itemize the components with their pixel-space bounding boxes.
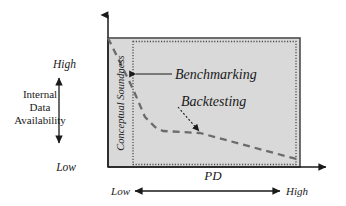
x-axis-title: PD (203, 168, 222, 183)
benchmarking-label: Benchmarking (175, 67, 257, 82)
y-axis-low-label: Low (55, 161, 76, 173)
y-axis-high-label: High (52, 58, 76, 71)
figure-container: High Low Internal Data Availability PD L… (0, 0, 346, 206)
concept-diagram-svg: High Low Internal Data Availability PD L… (0, 0, 346, 206)
y-axis-title-line-1: Internal (23, 88, 57, 100)
y-axis-title-line-2: Data (30, 101, 51, 113)
x-axis-low-label: Low (110, 185, 131, 197)
x-axis-high-label: High (285, 185, 309, 197)
conceptual-soundness-label: Conceptual Soundness (115, 55, 126, 150)
y-axis-title-line-3: Availability (14, 114, 66, 126)
backtesting-label: Backtesting (181, 94, 246, 109)
